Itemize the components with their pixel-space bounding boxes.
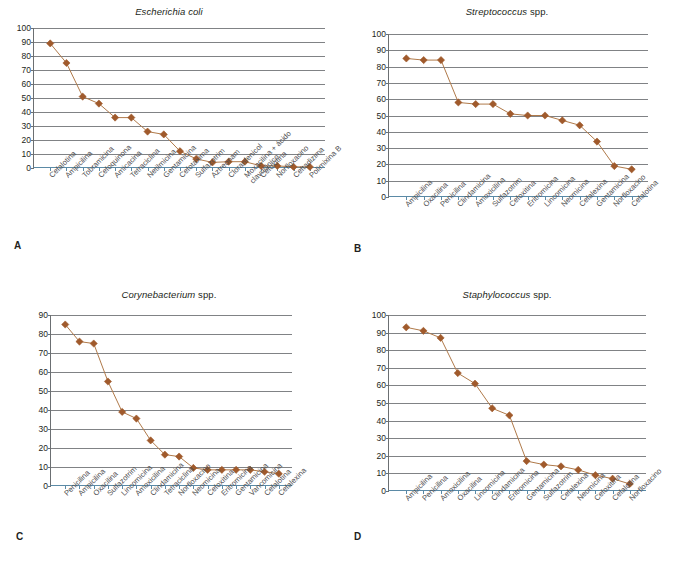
data-point-marker <box>437 334 444 341</box>
gridline <box>389 421 646 422</box>
data-point-marker <box>403 324 410 331</box>
y-tick-mark <box>48 391 51 392</box>
y-tick-label: 100 <box>372 30 386 39</box>
data-point-marker <box>76 338 83 345</box>
y-tick-label: 0 <box>43 482 48 491</box>
y-tick-label: 40 <box>39 406 48 415</box>
y-tick-label: 40 <box>377 128 386 137</box>
y-tick-label: 80 <box>22 52 31 61</box>
y-tick-mark <box>31 70 34 71</box>
y-tick-mark <box>386 34 389 35</box>
y-tick-mark <box>386 116 389 117</box>
y-tick-mark <box>31 28 34 29</box>
y-tick-label: 40 <box>22 108 31 117</box>
y-tick-label: 10 <box>377 469 386 478</box>
y-tick-label: 60 <box>39 368 48 377</box>
y-tick-mark <box>31 154 34 155</box>
panel-a: Escherichia coli 0102030405060708090100C… <box>0 0 338 282</box>
y-tick-mark <box>48 334 51 335</box>
series-line <box>65 325 279 474</box>
gridline <box>389 368 646 369</box>
y-tick-mark <box>48 315 51 316</box>
data-point-marker <box>628 166 635 173</box>
gridline <box>389 315 646 316</box>
y-tick-label: 90 <box>377 328 386 337</box>
panel-d-title-genus: Staphylococcus <box>462 289 530 300</box>
y-tick-mark <box>386 132 389 133</box>
y-tick-mark <box>31 168 34 169</box>
plot-area: 0102030405060708090100CefalotinaAmpicili… <box>33 28 325 168</box>
y-tick-label: 90 <box>22 38 31 47</box>
gridline <box>51 315 292 316</box>
panel-d-title: Staphylococcus spp. <box>338 289 676 300</box>
y-tick-label: 60 <box>377 95 386 104</box>
y-tick-label: 30 <box>39 425 48 434</box>
data-point-marker <box>559 117 566 124</box>
y-tick-mark <box>386 438 389 439</box>
y-tick-label: 100 <box>372 311 386 320</box>
data-point-marker <box>420 56 427 63</box>
y-tick-mark <box>31 56 34 57</box>
panel-b-title-suffix: spp. <box>527 6 548 17</box>
gridline <box>34 98 325 99</box>
data-point-marker <box>144 128 151 135</box>
y-tick-label: 50 <box>22 94 31 103</box>
y-tick-mark <box>386 99 389 100</box>
data-point-marker <box>62 321 69 328</box>
data-point-marker <box>540 461 547 468</box>
gridline <box>389 403 646 404</box>
y-tick-mark <box>386 368 389 369</box>
panel-c-title: Corynebacterium spp. <box>0 289 338 300</box>
data-point-marker <box>128 114 135 121</box>
y-tick-label: 10 <box>377 176 386 185</box>
gridline <box>51 334 292 335</box>
y-tick-label: 20 <box>22 136 31 145</box>
y-tick-label: 70 <box>22 66 31 75</box>
y-tick-label: 100 <box>17 24 31 33</box>
y-tick-mark <box>48 429 51 430</box>
data-point-marker <box>489 100 496 107</box>
data-point-marker <box>47 40 54 47</box>
data-point-marker <box>133 415 140 422</box>
gridline <box>34 28 325 29</box>
y-tick-mark <box>386 421 389 422</box>
gridline <box>389 456 646 457</box>
y-tick-label: 30 <box>377 434 386 443</box>
panel-c-title-genus: Corynebacterium <box>122 289 196 300</box>
y-tick-mark <box>386 197 389 198</box>
y-tick-label: 40 <box>377 416 386 425</box>
data-point-marker <box>147 437 154 444</box>
data-point-marker <box>63 59 70 66</box>
y-tick-mark <box>31 140 34 141</box>
gridline <box>389 164 648 165</box>
y-tick-label: 80 <box>377 62 386 71</box>
figure-container: Escherichia coli 0102030405060708090100C… <box>0 0 676 565</box>
panel-c-title-suffix: spp. <box>195 289 216 300</box>
data-series <box>51 315 293 486</box>
gridline <box>389 385 646 386</box>
data-point-marker <box>593 138 600 145</box>
gridline <box>389 83 648 84</box>
panel-b-title: Streptococcus spp. <box>338 6 676 17</box>
panel-d-title-suffix: spp. <box>530 289 551 300</box>
y-tick-label: 50 <box>377 111 386 120</box>
data-point-marker <box>454 369 461 376</box>
y-tick-label: 60 <box>22 80 31 89</box>
gridline <box>34 56 325 57</box>
y-tick-mark <box>386 491 389 492</box>
y-tick-mark <box>386 473 389 474</box>
y-tick-mark <box>386 164 389 165</box>
gridline <box>34 84 325 85</box>
gridline <box>51 372 292 373</box>
y-tick-label: 60 <box>377 381 386 390</box>
y-tick-mark <box>386 83 389 84</box>
gridline <box>51 353 292 354</box>
series-line <box>406 58 631 169</box>
data-point-marker <box>90 340 97 347</box>
y-tick-mark <box>31 126 34 127</box>
y-tick-label: 70 <box>377 79 386 88</box>
data-point-marker <box>576 122 583 129</box>
y-tick-label: 10 <box>39 463 48 472</box>
data-point-marker <box>506 412 513 419</box>
plot-area: 0102030405060708090PenicilinaAmpicilinaO… <box>50 315 292 486</box>
